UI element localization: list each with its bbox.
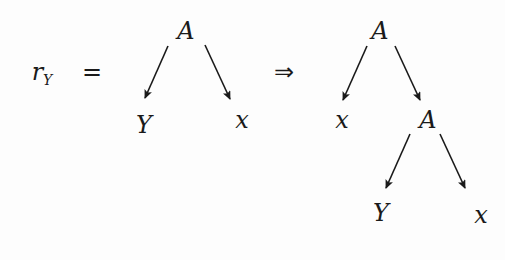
lhs-symbol: rY <box>32 60 53 84</box>
right-tree-child-x: x <box>335 108 349 132</box>
edge-right-root-to-A <box>395 46 420 100</box>
edge-right-root-to-x <box>343 46 367 100</box>
lhs-r: r <box>32 58 43 86</box>
equals-sign: = <box>82 60 102 84</box>
right-tree-root: A <box>371 19 388 43</box>
implies-arrow: ⇒ <box>274 60 294 84</box>
subtree-child-x: x <box>474 203 488 227</box>
lhs-subscript: Y <box>43 72 52 88</box>
subtree-child-Y: Y <box>373 201 389 225</box>
edge-subtree-root-to-Y <box>386 134 410 188</box>
left-tree-child-Y: Y <box>136 113 152 137</box>
edge-left-root-to-x <box>205 45 230 99</box>
diagram-canvas: rY = A Y x ⇒ A x A Y x <box>0 0 505 260</box>
edge-left-root-to-Y <box>145 46 168 98</box>
left-tree-child-x: x <box>235 108 249 132</box>
right-tree-child-A: A <box>419 108 436 132</box>
left-tree-root: A <box>177 19 194 43</box>
edge-subtree-root-to-x <box>440 134 465 188</box>
